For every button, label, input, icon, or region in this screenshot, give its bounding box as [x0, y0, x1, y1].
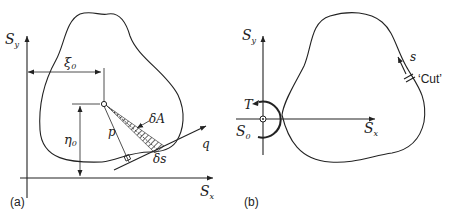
figure-canvas: ξ0 η0 p q δA δs Sy Sx (a) — [0, 0, 454, 213]
y-axis-label: Sy — [5, 31, 20, 49]
xi-label: ξ0 — [64, 55, 76, 71]
eta-label: η0 — [64, 132, 77, 148]
y-axis-label-b: Sy — [242, 27, 257, 45]
dA-label: δA — [149, 112, 165, 126]
q-label: q — [202, 137, 210, 151]
panel-a: ξ0 η0 p q δA δs Sy Sx (a) — [5, 13, 215, 209]
ds-label: δs — [153, 152, 166, 166]
caption-a: (a) — [10, 195, 25, 209]
x-axis-label: Sx — [200, 183, 215, 201]
section-outline — [40, 13, 183, 163]
panel-b: T S0 ‘Cut’ s Sy Sx (b) — [236, 13, 442, 209]
s-label: s — [410, 50, 416, 64]
p-label: p — [108, 125, 116, 139]
origin-label: S0 — [236, 123, 251, 141]
pole-point — [101, 101, 106, 106]
s-direction-arrow — [398, 57, 406, 74]
caption-b: (b) — [244, 195, 259, 209]
torque-label: T — [244, 97, 254, 112]
section-outline-b — [282, 13, 425, 163]
x-axis-label-b: Sx — [364, 120, 379, 138]
cut-label: ‘Cut’ — [418, 72, 442, 86]
